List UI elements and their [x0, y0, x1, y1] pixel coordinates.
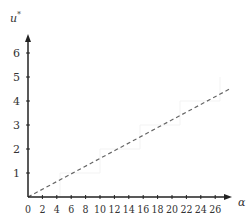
x-tick-label: 18 — [152, 203, 164, 216]
x-tick-label: 22 — [180, 203, 192, 216]
x-tick-label: 12 — [108, 203, 120, 216]
x-axis — [28, 194, 232, 200]
x-tick-label: 0 — [25, 203, 31, 216]
x-tick-label: 20 — [166, 203, 178, 216]
x-tick-label: 10 — [94, 203, 106, 216]
x-ticks: 02468101214161820222426 — [25, 195, 221, 216]
x-tick-label: 8 — [83, 203, 89, 216]
x-axis-arrow-icon — [224, 194, 232, 200]
y-tick-label: 1 — [13, 167, 20, 180]
y-tick-label: 4 — [13, 95, 20, 108]
y-tick-label: 3 — [13, 119, 20, 132]
y-tick-label: 2 — [13, 143, 20, 156]
y-axis-arrow-icon — [25, 34, 31, 42]
y-axis-label: u* — [10, 10, 21, 25]
x-tick-label: 24 — [195, 203, 207, 216]
x-tick-label: 4 — [54, 203, 60, 216]
x-tick-label: 2 — [39, 203, 45, 216]
chart: 02468101214161820222426 123456 u* α — [0, 0, 250, 222]
series-line — [28, 89, 230, 197]
x-tick-label: 14 — [123, 203, 135, 216]
x-tick-label: 16 — [137, 203, 149, 216]
y-tick-label: 6 — [13, 47, 20, 60]
x-tick-label: 26 — [209, 203, 221, 216]
y-tick-label: 5 — [13, 71, 20, 84]
x-tick-label: 6 — [68, 203, 74, 216]
x-axis-label: α — [238, 196, 246, 209]
data-series — [28, 89, 230, 197]
